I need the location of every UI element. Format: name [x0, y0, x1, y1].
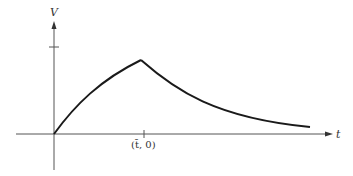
x-axis-label: t: [336, 128, 341, 141]
y-axis-arrow-icon: [52, 21, 57, 29]
chart-canvas: V t (t̄, 0): [0, 0, 353, 176]
x-tick-label: (t̄, 0): [131, 139, 156, 150]
rising-curve: [54, 60, 141, 134]
decay-curve: [141, 60, 310, 127]
x-axis-arrow-icon: [325, 132, 333, 137]
y-axis-label: V: [50, 6, 59, 19]
